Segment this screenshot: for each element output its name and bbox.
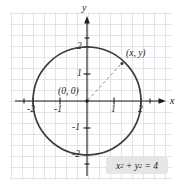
equation-operator: + (126, 161, 132, 171)
x-tick-label-1: 1 (111, 105, 116, 115)
general-point-label: (x, y) (126, 49, 146, 59)
y-axis (84, 16, 90, 176)
equation-equals: = (144, 161, 150, 171)
x-tick-label-neg2: -2 (27, 105, 35, 115)
origin-marker (85, 99, 88, 102)
circle-graph-figure: x y -2 -1 1 2 2 1 -1 -2 (0, 0) (x, y) x2… (0, 0, 183, 193)
point-marker (120, 62, 123, 65)
y-tick-label-neg1: -1 (72, 123, 80, 133)
y-tick-label-neg2: -2 (72, 150, 80, 160)
x-tick-label-neg1: -1 (54, 105, 62, 115)
equation-text: x2 + y2 = 4 (106, 157, 168, 174)
x-tick-label-2: 2 (138, 105, 143, 115)
equation-box: x2 + y2 = 4 (106, 157, 168, 174)
dashed-radius-line (88, 64, 121, 100)
x-axis-label: x (170, 96, 174, 106)
y-axis-label: y (82, 3, 86, 13)
origin-point-label: (0, 0) (58, 87, 79, 97)
equation-rhs: 4 (153, 161, 158, 171)
y-tick-label-1: 1 (77, 69, 82, 79)
y-tick-label-2: 2 (77, 42, 82, 52)
